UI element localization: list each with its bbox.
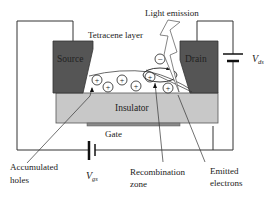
recombination-arrow-icon <box>153 83 157 88</box>
hole-plus: + <box>95 76 100 85</box>
vgs-battery-icon <box>89 141 95 160</box>
vds-label: Vds <box>252 53 264 65</box>
vds-battery-icon <box>223 54 243 61</box>
insulator-label: Insulator <box>115 103 150 113</box>
accumulated-holes-label-1: Accumulated <box>10 162 58 172</box>
gate-label: Gate <box>105 129 122 139</box>
tetracene-layer-label: Tetracene layer <box>88 30 143 40</box>
hole-plus: + <box>166 84 171 93</box>
drain-label: Drain <box>185 54 207 64</box>
hole-plus: + <box>134 82 139 91</box>
hole-plus: + <box>106 83 111 92</box>
source-electrode <box>53 41 93 93</box>
oled-fet-diagram: + + + + + + − Source Drain Insulator Gat… <box>0 0 280 199</box>
holes-arrow-icon <box>90 87 94 92</box>
accumulated-holes-label-2: holes <box>10 175 29 185</box>
drain-electrode <box>180 41 218 93</box>
emitted-electrons-label-2: electrons <box>210 178 243 188</box>
light-emission-label: Light emission <box>145 8 199 18</box>
source-label: Source <box>57 54 83 64</box>
gate-electrode <box>87 123 180 126</box>
hole-plus: + <box>120 76 125 85</box>
electron-minus: − <box>157 54 162 64</box>
recombination-zone-label-1: Recombination <box>130 167 185 177</box>
vgs-label: Vgs <box>86 170 98 182</box>
recombination-zone-label-2: zone <box>130 179 147 189</box>
emitted-electrons-label-1: Emitted <box>210 166 239 176</box>
